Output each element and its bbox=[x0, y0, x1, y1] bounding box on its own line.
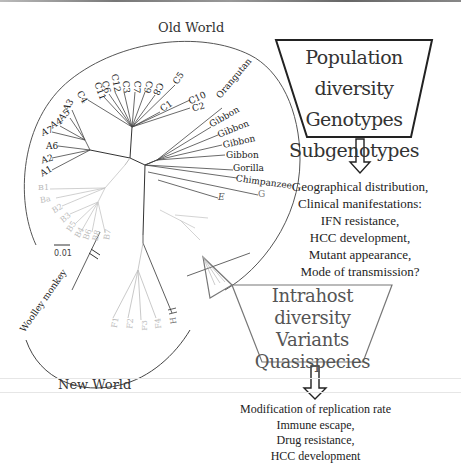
box-line: Population diversity bbox=[276, 42, 432, 104]
tree-label-f3: F3 bbox=[140, 320, 149, 331]
box-line: Quasispecies bbox=[235, 351, 390, 373]
tree-label-c3: C3 bbox=[121, 80, 132, 93]
tree-label-f1: F1 bbox=[110, 316, 121, 328]
outcome-item: HCC development, bbox=[280, 229, 440, 246]
box-line: Genotypes bbox=[276, 104, 432, 135]
box-line: diversity bbox=[235, 307, 390, 329]
tree-label-ba: Ba bbox=[39, 194, 51, 205]
tree-label-a6: A6 bbox=[46, 141, 58, 151]
outcome-item: Drug resistance, bbox=[228, 433, 403, 449]
tree-label-e: E bbox=[218, 192, 225, 202]
outcome-item: Modification of replication rate bbox=[228, 402, 403, 418]
intrahost-outcomes-list: Modification of replication rate Immune … bbox=[228, 402, 403, 464]
tree-label-f4: F4 bbox=[153, 318, 163, 329]
outcome-item: Mode of transmission? bbox=[280, 263, 440, 280]
tree-label-b7: B7 bbox=[102, 228, 113, 240]
divider-band bbox=[0, 392, 461, 393]
tree-label-b1: B1 bbox=[38, 183, 49, 192]
scale-bar-label: 0.01 bbox=[54, 249, 72, 258]
new-world-label: New World bbox=[58, 377, 131, 392]
population-diversity-box: Population diversity Genotypes Subgenoty… bbox=[276, 42, 432, 166]
box-line: Variants bbox=[235, 329, 390, 351]
outcome-item: HCC development bbox=[228, 449, 403, 465]
box-line: Intrahost bbox=[235, 285, 390, 307]
box-line: Subgenotypes bbox=[276, 135, 432, 166]
outcome-item: Immune escape, bbox=[228, 418, 403, 434]
population-outcomes-list: Geographical distribution, Clinical mani… bbox=[280, 178, 440, 280]
tree-label-g: G bbox=[258, 189, 265, 199]
outcome-item: Mutant appearance, bbox=[280, 246, 440, 263]
old-world-label: Old World bbox=[158, 20, 224, 35]
tree-label-f2: F2 bbox=[125, 318, 135, 329]
tree-label-gorilla: Gorilla bbox=[233, 163, 264, 173]
outcome-item: Geographical distribution, bbox=[280, 178, 440, 195]
intrahost-diversity-box: Intrahost diversity Variants Quasispecie… bbox=[235, 285, 390, 373]
outcome-item: Clinical manifestations: bbox=[280, 195, 440, 212]
outcome-item: IFN resistance, bbox=[280, 212, 440, 229]
tree-label-gibbon: Gibbon bbox=[226, 150, 259, 160]
